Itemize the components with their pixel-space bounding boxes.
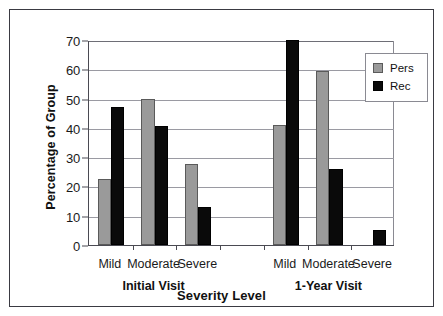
gridline	[89, 217, 394, 218]
x-tick-mark	[264, 245, 265, 250]
chart-figure: Percentage of Group 010203040506070 Mild…	[0, 0, 443, 316]
y-tick-mark	[82, 41, 88, 42]
y-tick-label: 0	[46, 239, 80, 254]
y-tick-label: 40	[46, 121, 80, 136]
bar-pers-4	[316, 71, 329, 245]
y-tick-mark	[82, 99, 88, 100]
y-tick-mark	[82, 128, 88, 129]
legend-swatch-pers-icon	[373, 63, 383, 73]
y-tick-mark	[82, 158, 88, 159]
legend-label: Pers	[390, 62, 414, 74]
chart-legend: PersRec	[365, 53, 428, 102]
category-label-severe-5: Severe	[352, 257, 392, 271]
x-tick-mark	[220, 245, 221, 250]
gridline	[89, 129, 394, 130]
gridline	[89, 187, 394, 188]
x-tick-mark	[176, 245, 177, 250]
y-tick-label: 20	[46, 180, 80, 195]
category-label-moderate-4: Moderate	[302, 257, 355, 271]
bar-rec-5	[373, 230, 386, 245]
x-tick-mark	[308, 245, 309, 250]
plot-area	[88, 41, 394, 246]
y-tick-label: 60	[46, 63, 80, 78]
x-tick-mark	[351, 245, 352, 250]
x-axis-title: Severity Level	[10, 288, 433, 303]
bar-pers-1	[141, 99, 154, 245]
bar-pers-3	[273, 125, 286, 245]
gridline	[89, 158, 394, 159]
figure-frame: Percentage of Group 010203040506070 Mild…	[9, 9, 434, 307]
y-tick-mark	[82, 216, 88, 217]
gridline	[89, 100, 394, 101]
category-label-mild-3: Mild	[273, 257, 296, 271]
category-label-moderate-1: Moderate	[127, 257, 180, 271]
bar-rec-0	[111, 107, 124, 245]
y-tick-label: 30	[46, 151, 80, 166]
x-tick-mark	[133, 245, 134, 250]
bar-rec-3	[286, 40, 299, 245]
y-tick-mark	[82, 70, 88, 71]
bar-pers-2	[185, 164, 198, 245]
y-tick-mark	[82, 246, 88, 247]
legend-label: Rec	[390, 80, 410, 92]
y-axis-title: Percentage of Group	[44, 62, 58, 232]
legend-swatch-rec-icon	[373, 81, 383, 91]
bar-rec-1	[155, 126, 168, 245]
y-tick-mark	[82, 187, 88, 188]
y-tick-label: 10	[46, 209, 80, 224]
y-tick-label: 50	[46, 92, 80, 107]
category-label-severe-2: Severe	[177, 257, 217, 271]
plot-top-rule	[89, 41, 394, 42]
y-tick-label: 70	[46, 34, 80, 49]
legend-item-pers: Pers	[373, 60, 420, 76]
bar-rec-2	[198, 207, 211, 245]
gridline	[89, 70, 394, 71]
legend-item-rec: Rec	[373, 78, 420, 94]
category-label-mild-0: Mild	[98, 257, 121, 271]
bar-rec-4	[329, 169, 342, 245]
bar-pers-0	[98, 179, 111, 245]
